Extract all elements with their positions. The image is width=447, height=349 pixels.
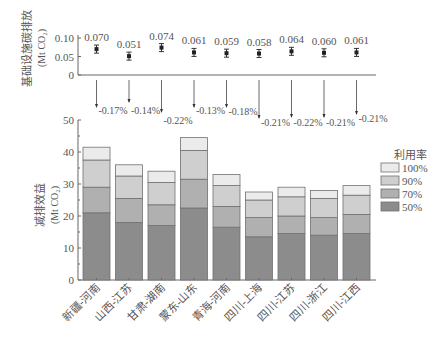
emission-value-label: 0.051 (117, 38, 142, 50)
emission-point: 0.060 (312, 35, 337, 57)
x-axis-category-labels: 新疆-河南山西-江苏甘肃-湖南蒙东-山东青海-河南四川-上海四川-江苏四川-浙江… (59, 280, 362, 323)
legend-item: 100% (381, 162, 428, 174)
reduction-arrow: -0.22% (160, 80, 193, 126)
legend-title: 利用率 (394, 148, 427, 161)
bar-segment-70pct (278, 216, 305, 234)
top-y-label-line1: 基础设施碳排放 (20, 10, 33, 87)
bottom-y-tick-label: 10 (63, 242, 75, 254)
stacked-bar (148, 171, 175, 280)
legend-swatch (381, 202, 399, 211)
reduction-arrow: -0.21% (258, 80, 291, 128)
bar-segment-70pct (116, 198, 143, 222)
legend-item: 50% (381, 201, 422, 213)
legend-label: 100% (402, 162, 428, 174)
reduction-arrow: -0.17% (95, 80, 128, 116)
bar-segment-100pct (343, 186, 370, 196)
bar-segment-100pct (213, 174, 240, 185)
stacked-bar (116, 165, 143, 280)
bar-segment-90pct (83, 160, 110, 187)
reduction-arrow: -0.21% (323, 80, 356, 128)
bar-segment-90pct (343, 195, 370, 214)
emission-value-label: 0.059 (214, 35, 239, 47)
reduction-percent-label: -0.22% (294, 117, 323, 128)
reduction-arrow: -0.14% (128, 80, 161, 116)
bottom-y-tick-label: 30 (63, 178, 75, 190)
emission-value-label: 0.074 (149, 30, 174, 42)
top-y-tick-label: 0.05 (55, 51, 75, 63)
bar-segment-50pct (116, 222, 143, 280)
stacked-bar (83, 147, 110, 280)
bar-segment-100pct (278, 187, 305, 197)
bar-segment-50pct (83, 213, 110, 280)
bar-segment-50pct (278, 234, 305, 280)
emission-value-label: 0.061 (182, 34, 207, 46)
legend-swatch (381, 176, 399, 185)
emission-point: 0.051 (117, 38, 142, 60)
top-y-tick-label: 0.10 (55, 32, 75, 44)
top-y-tick-label: 0 (69, 69, 75, 81)
stacked-bar (213, 174, 240, 280)
emission-point: 0.070 (84, 31, 109, 53)
bar-segment-50pct (213, 227, 240, 280)
bottom-y-tick-label: 0 (69, 274, 75, 286)
top-y-axis-label: 基础设施碳排放(Mt CO₂) (20, 10, 48, 87)
bar-segment-90pct (181, 150, 208, 179)
bottom-y-tick-label: 20 (63, 210, 75, 222)
emission-point: 0.061 (182, 34, 207, 56)
reduction-percent-label: -0.22% (164, 115, 193, 126)
bar-segment-90pct (246, 200, 273, 218)
reduction-percent-label: -0.17% (99, 105, 128, 116)
emission-value-label: 0.064 (279, 33, 304, 45)
bar-segment-100pct (311, 190, 338, 198)
reduction-arrow: -0.18% (225, 80, 258, 117)
reduction-percent-label: -0.21% (326, 117, 355, 128)
legend-item: 90% (381, 175, 422, 187)
bar-segment-90pct (148, 182, 175, 204)
reduction-percent-label: -0.21% (359, 113, 388, 124)
legend-label: 90% (402, 175, 422, 187)
infrastructure-emission-panel: 基础设施碳排放(Mt CO₂) 00.050.10 0.0700.0510.07… (20, 10, 376, 87)
reduction-percent-label: -0.21% (261, 117, 290, 128)
legend-swatch (381, 163, 399, 172)
bar-segment-50pct (148, 226, 175, 280)
legend-swatch (381, 189, 399, 198)
stacked-bar (181, 138, 208, 280)
stacked-bar (311, 190, 338, 280)
bar-segment-90pct (278, 197, 305, 216)
bar-segment-70pct (213, 206, 240, 227)
bar-segment-70pct (246, 218, 273, 237)
bar-segment-100pct (181, 138, 208, 151)
bottom-y-tick-label: 50 (63, 114, 75, 126)
emission-point: 0.059 (214, 35, 239, 57)
bottom-y-axis-label: 减排效益(Mt CO₂) (33, 183, 61, 227)
reduction-arrow: -0.21% (355, 80, 388, 124)
bar-segment-90pct (116, 176, 143, 198)
emission-point: 0.058 (247, 36, 272, 58)
chart-figure: 基础设施碳排放(Mt CO₂) 00.050.10 0.0700.0510.07… (0, 0, 447, 349)
bar-segment-70pct (148, 205, 175, 226)
bar-segment-100pct (116, 165, 143, 176)
reduction-arrow: -0.22% (290, 80, 323, 128)
reduction-percent-label: -0.14% (131, 105, 160, 116)
emission-points: 0.0700.0510.0740.0610.0590.0580.0640.060… (84, 30, 369, 61)
emission-point: 0.074 (149, 30, 174, 52)
stacked-bars (83, 138, 370, 280)
bar-segment-50pct (343, 234, 370, 280)
bar-segment-90pct (311, 198, 338, 217)
bar-segment-100pct (246, 192, 273, 200)
bar-segment-50pct (311, 235, 338, 280)
emission-value-label: 0.061 (344, 34, 369, 46)
reduction-percent-label: -0.18% (229, 106, 258, 117)
bar-segment-50pct (181, 208, 208, 280)
emission-value-label: 0.058 (247, 36, 272, 48)
emission-point: 0.061 (344, 34, 369, 56)
legend-label: 50% (402, 201, 422, 213)
bar-segment-70pct (83, 187, 110, 213)
bottom-y-label-line1: 减排效益 (33, 183, 46, 227)
bottom-y-label-line2: (Mt CO₂) (49, 186, 61, 224)
bar-segment-100pct (83, 147, 110, 160)
utilization-legend: 利用率100%90%70%50% (381, 148, 428, 213)
bar-segment-70pct (311, 218, 338, 236)
bar-segment-70pct (343, 214, 370, 233)
stacked-bar (246, 192, 273, 280)
